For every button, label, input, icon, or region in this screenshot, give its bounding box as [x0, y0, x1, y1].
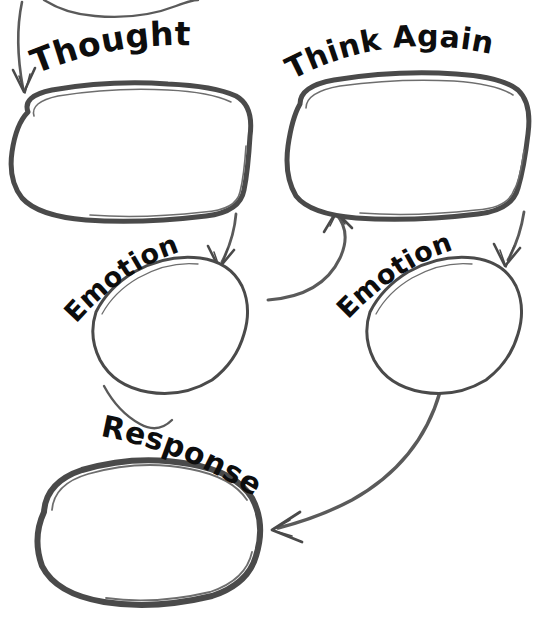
node-thought[interactable] — [11, 83, 251, 221]
connector-emotion-right-to-response — [272, 392, 440, 542]
connector-thought-to-think-again — [268, 212, 352, 300]
connector-think-again-to-emotion-right — [494, 212, 524, 267]
node-label-thought: Thought — [25, 14, 191, 81]
diagram-canvas: Thought Think Again Emotion Emotion Resp… — [0, 0, 540, 621]
node-think-again[interactable] — [287, 73, 529, 219]
top-cut-shape — [44, 0, 198, 17]
